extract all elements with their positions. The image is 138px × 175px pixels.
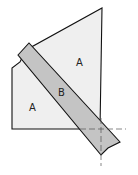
label-a-upper: A [76, 57, 83, 68]
diagram-canvas: A A B [0, 0, 138, 175]
label-b: B [58, 87, 65, 98]
label-a-lower: A [29, 102, 36, 113]
